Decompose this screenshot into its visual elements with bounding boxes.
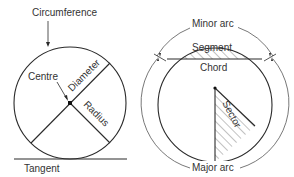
label-diameter: Diameter	[66, 56, 103, 93]
left-diagram: Circumference Centre Diameter Radius Tan…	[14, 7, 127, 174]
label-major-arc: Major arc	[192, 162, 234, 173]
arrowhead-icon	[46, 42, 50, 47]
arrowhead-icon	[157, 57, 159, 61]
label-tangent: Tangent	[24, 163, 60, 174]
arrowhead-icon	[271, 57, 273, 61]
label-segment: Segment	[192, 42, 232, 53]
circle-parts-diagram: Circumference Centre Diameter Radius Tan…	[0, 0, 294, 177]
arrowhead-icon	[64, 95, 68, 101]
minor-arc-line	[237, 27, 273, 56]
arrowhead-icon	[269, 53, 271, 57]
arrowhead-icon	[159, 53, 161, 57]
right-diagram: Minor arc Segment Chord Sector Major arc	[141, 17, 289, 174]
label-centre: Centre	[28, 71, 58, 82]
label-radius: Radius	[82, 99, 112, 129]
label-circumference: Circumference	[32, 7, 97, 18]
centre-point	[68, 101, 72, 105]
minor-arc-line	[157, 28, 190, 56]
label-minor-arc: Minor arc	[192, 18, 234, 29]
label-chord: Chord	[200, 62, 227, 73]
sector-centre-point	[213, 86, 216, 89]
